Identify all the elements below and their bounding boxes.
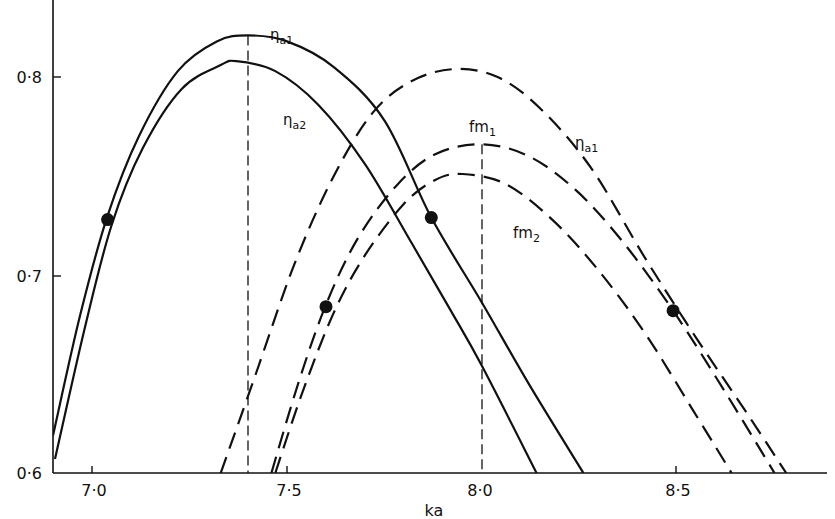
label-fm1-main: fm [469,118,489,136]
curve-fm2-dashed [275,174,731,473]
label-dashed-eta-a1-main: η [575,134,585,152]
label-fm1-sub: 1 [489,126,496,139]
label-solid-eta-a1-sub: a1 [280,34,294,47]
y-tick-label-0.7: 0·7 [17,267,42,286]
x-axis-title: ka [425,501,444,519]
label-solid-eta-a2-sub: a2 [293,119,307,132]
x-tick-label-7.5: 7·5 [276,481,301,500]
label-fm2: fm2 [513,224,540,245]
label-fm1: fm1 [469,118,496,139]
curve-fm1-dashed [271,144,774,473]
marker-point-0 [101,213,114,226]
label-solid-eta-a2-main: η [283,111,293,129]
marker-point-3 [667,304,680,317]
marker-point-2 [320,300,333,313]
label-solid-eta-a1: ηa1 [270,26,293,47]
label-dashed-eta-a1-sub: a1 [585,142,599,155]
label-dashed-eta-a1: ηa1 [575,134,598,155]
curves [53,35,786,473]
label-fm2-main: fm [513,224,533,242]
y-tick-label-0.6: 0·6 [17,464,42,483]
label-solid-eta-a2: ηa2 [283,111,306,132]
x-tick-label-8.5: 8·5 [665,481,690,500]
marker-point-1 [425,211,438,224]
label-fm2-sub: 2 [533,232,540,245]
label-solid-eta-a1-main: η [270,26,280,44]
y-tick-label-0.8: 0·8 [17,68,42,87]
efficiency-vs-ka-chart: 0·8 0·7 0·6 7·0 7·5 8·0 8·5 ka ηa1 ηa2 f… [0,0,835,519]
x-tick-label-7.0: 7·0 [81,481,106,500]
chart-canvas: 0·8 0·7 0·6 7·0 7·5 8·0 8·5 ka ηa1 ηa2 f… [0,0,835,519]
x-tick-label-8.0: 8·0 [467,481,492,500]
